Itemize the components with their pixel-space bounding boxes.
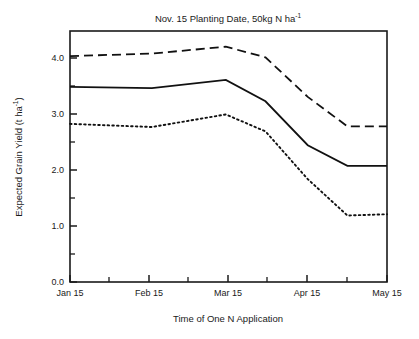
chart-figure: Nov. 15 Planting Date, 50kg N ha-1 0.0 1… — [0, 0, 419, 339]
x-tick-label: Apr 15 — [294, 288, 321, 298]
y-tick-label: 2.0 — [51, 165, 64, 175]
chart-title: Nov. 15 Planting Date, 50kg N ha-1 — [155, 12, 301, 24]
series-line-middle — [70, 80, 387, 166]
y-axis-title-text: Expected Grain Yield (t ha — [13, 106, 24, 217]
chart-title-text: Nov. 15 Planting Date, 50kg N ha — [155, 13, 296, 24]
y-axis-title: Expected Grain Yield (t ha-1) — [12, 97, 24, 216]
x-axis-title: Time of One N Application — [173, 313, 283, 324]
series-line-upper — [70, 47, 387, 127]
x-tick-label: Jan 15 — [56, 288, 83, 298]
series-line-lower — [70, 114, 387, 215]
x-axis: Jan 15 Feb 15 Mar 15 Apr 15 May 15 — [56, 275, 401, 298]
y-tick-major-group — [70, 58, 77, 282]
y-tick-label: 4.0 — [51, 53, 64, 63]
x-tick-major-group — [70, 275, 387, 282]
line-chart: Nov. 15 Planting Date, 50kg N ha-1 0.0 1… — [0, 0, 419, 339]
y-axis: 0.0 1.0 2.0 3.0 4.0 — [51, 53, 77, 287]
y-tick-label: 1.0 — [51, 221, 64, 231]
y-tick-label: 0.0 — [51, 277, 64, 287]
y-tick-label: 3.0 — [51, 109, 64, 119]
x-tick-label: May 15 — [372, 288, 402, 298]
x-tick-label: Mar 15 — [214, 288, 242, 298]
y-axis-title-tail: ) — [13, 97, 24, 100]
series-group — [70, 47, 387, 216]
chart-title-superscript: -1 — [295, 12, 301, 19]
x-tick-label: Feb 15 — [135, 288, 163, 298]
plot-frame — [70, 31, 387, 282]
